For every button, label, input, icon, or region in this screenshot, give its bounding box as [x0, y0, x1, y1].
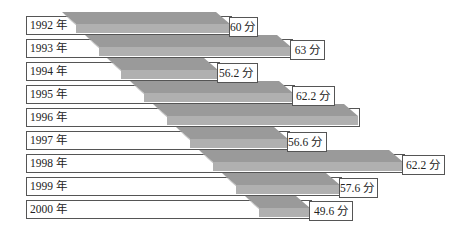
- score-bar-chart: 1992 年1993 年1994 年1995 年1996 年1997 年1998…: [0, 0, 470, 239]
- bar: [85, 35, 291, 56]
- bar: [62, 12, 230, 33]
- value-label: 60 分: [229, 17, 258, 37]
- bar: [107, 58, 218, 79]
- bar: [153, 104, 358, 125]
- value-label: 57.6 分: [339, 178, 378, 198]
- bar: [199, 150, 403, 171]
- bar: [176, 127, 288, 148]
- value-label: 62.2 分: [292, 86, 335, 106]
- value-label: 56.2 分: [217, 63, 258, 83]
- value-label: 63 分: [290, 40, 325, 60]
- value-label: 62.2 分: [402, 155, 445, 175]
- value-label: 49.6 分: [309, 201, 353, 221]
- bar: [245, 196, 310, 217]
- value-label: 56.6 分: [287, 132, 327, 152]
- bar: [130, 81, 293, 102]
- bar: [222, 173, 340, 194]
